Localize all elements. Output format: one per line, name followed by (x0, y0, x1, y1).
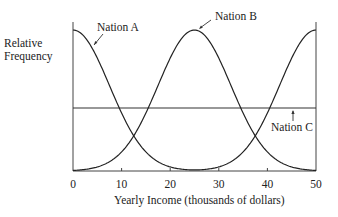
x-tick-20: 20 (164, 178, 176, 190)
x-tick-40: 40 (262, 178, 274, 190)
label-nation-a: Nation A (97, 21, 139, 34)
x-tick-0: 0 (70, 178, 76, 190)
label-nation-c: Nation C (271, 121, 313, 134)
series-nation-a (73, 30, 316, 170)
label-nation-b: Nation B (215, 10, 257, 23)
y-axis-label: Relative Frequency (4, 37, 53, 63)
x-tick-50: 50 (310, 178, 322, 190)
arrow-nation-c-head (291, 110, 294, 114)
series-nation-b (73, 30, 316, 170)
y-axis-label-line1: Relative (4, 37, 53, 50)
y-axis-label-line2: Frequency (4, 50, 53, 63)
x-tick-30: 30 (213, 178, 225, 190)
x-axis-label: Yearly Income (thousands of dollars) (114, 194, 285, 207)
x-tick-10: 10 (116, 178, 128, 190)
